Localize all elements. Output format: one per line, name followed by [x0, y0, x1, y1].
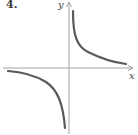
x-axis — [3, 66, 133, 71]
curve-upper-branch — [73, 11, 126, 64]
hyperbola-plot — [0, 0, 138, 135]
curve-lower-branch — [8, 71, 65, 128]
